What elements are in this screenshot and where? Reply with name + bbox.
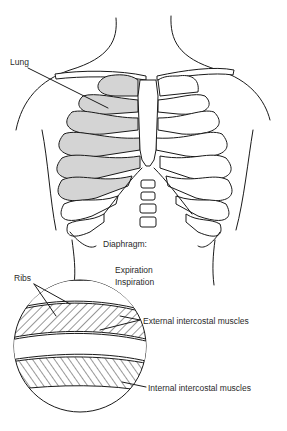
- diagram-canvas: Lung Diaphragm: Expiration Inspiration R…: [0, 0, 287, 431]
- diaphragm-label: Diaphragm:: [103, 240, 147, 249]
- internal-intercostal-label: Internal intercostal muscles: [148, 384, 251, 393]
- right-ribs: [156, 76, 232, 237]
- lung-label: Lung: [10, 58, 29, 67]
- intercostal-inset: [10, 280, 150, 412]
- ribs-label: Ribs: [14, 274, 31, 283]
- ribcage-illustration: [0, 0, 287, 431]
- spine: [140, 180, 156, 227]
- left-ribs: [57, 75, 140, 236]
- sternum: [138, 80, 158, 166]
- external-intercostal-label: External intercostal muscles: [143, 317, 249, 326]
- clavicles: [55, 68, 234, 80]
- inspiration-label: Inspiration: [115, 278, 154, 287]
- expiration-label: Expiration: [115, 266, 153, 275]
